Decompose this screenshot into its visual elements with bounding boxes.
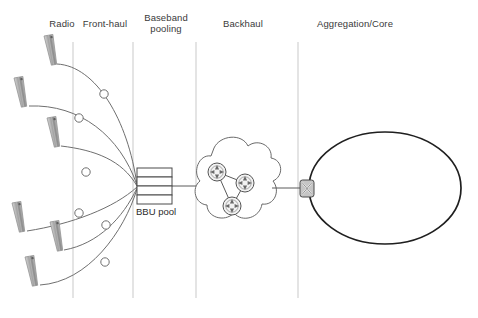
radio-antennas [12, 34, 64, 286]
fiber-link-3 [61, 146, 137, 186]
router-1-icon[interactable] [208, 163, 226, 181]
antenna-3 [47, 116, 61, 147]
fiber-node-6 [101, 258, 109, 266]
bbu-layer-4 [137, 195, 172, 204]
diagram-canvas: Radio Front-haul Baseband pooling Backha… [0, 0, 478, 318]
fiber-link-1 [57, 64, 137, 185]
router-2-icon[interactable] [236, 174, 254, 192]
antenna-5 [50, 220, 64, 251]
bbu-layer-2 [137, 177, 172, 186]
fiber-link-4 [27, 187, 137, 231]
bbu-layer-1 [137, 168, 172, 177]
fiber-node-3 [82, 168, 90, 176]
aggregation-switch-icon[interactable] [300, 180, 314, 197]
fiber-node-2 [75, 114, 83, 122]
antenna-4 [12, 201, 26, 232]
antenna-2 [14, 76, 28, 107]
core-ring-ellipse [309, 132, 461, 244]
bbu-layer-3 [137, 186, 172, 195]
antenna-1 [44, 34, 58, 65]
antenna-6 [25, 255, 39, 286]
zone-label-baseband-pooling: Baseband pooling [136, 12, 196, 34]
bbu-pool[interactable] [137, 168, 172, 204]
router-3-icon[interactable] [223, 197, 241, 215]
fiber-node-4 [75, 209, 83, 217]
fiber-node-1 [100, 90, 108, 98]
zone-label-backhaul: Backhaul [212, 18, 274, 29]
fronthaul-fiber-links [27, 64, 137, 285]
bbu-pool-label: BBU pool [136, 206, 176, 217]
zone-label-aggregation-core: Aggregation/Core [300, 18, 410, 29]
fiber-node-5 [102, 221, 110, 229]
zone-label-front-haul: Front-haul [76, 18, 134, 29]
network-architecture-diagram [0, 0, 478, 318]
fiber-link-5 [64, 188, 137, 250]
